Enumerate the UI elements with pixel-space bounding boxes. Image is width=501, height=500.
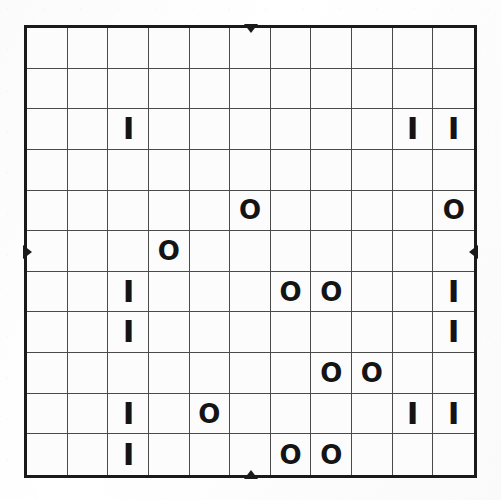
grid-cell[interactable] xyxy=(352,312,393,353)
grid-cell[interactable] xyxy=(433,231,474,272)
grid-cell[interactable]: O xyxy=(433,191,474,232)
grid-cell[interactable] xyxy=(149,109,190,150)
grid-cell[interactable]: I xyxy=(433,109,474,150)
grid-cell[interactable]: I xyxy=(108,109,149,150)
grid-cell[interactable] xyxy=(393,28,434,69)
grid-cell[interactable]: I xyxy=(433,312,474,353)
grid-cell[interactable] xyxy=(230,150,271,191)
grid-cell[interactable] xyxy=(68,312,109,353)
grid-cell[interactable] xyxy=(230,434,271,475)
grid-cell[interactable] xyxy=(27,272,68,313)
grid-cell[interactable] xyxy=(311,28,352,69)
grid-cell[interactable] xyxy=(311,69,352,110)
grid-cell[interactable] xyxy=(149,272,190,313)
grid-cell[interactable]: I xyxy=(433,394,474,435)
grid-cell[interactable]: I xyxy=(108,394,149,435)
grid-cell[interactable] xyxy=(68,272,109,313)
grid-cell[interactable] xyxy=(190,312,231,353)
grid-cell[interactable] xyxy=(108,150,149,191)
grid-cell[interactable] xyxy=(68,231,109,272)
grid-cell[interactable] xyxy=(68,353,109,394)
grid-cell[interactable] xyxy=(108,69,149,110)
grid-cell[interactable] xyxy=(27,231,68,272)
grid-cell[interactable]: O xyxy=(271,434,312,475)
grid-cell[interactable] xyxy=(190,272,231,313)
grid-cell[interactable] xyxy=(27,434,68,475)
grid-cell[interactable] xyxy=(68,191,109,232)
grid-cell[interactable] xyxy=(27,150,68,191)
grid-cell[interactable] xyxy=(149,394,190,435)
grid-cell[interactable] xyxy=(190,109,231,150)
grid-cell[interactable] xyxy=(433,434,474,475)
grid-cell[interactable]: I xyxy=(108,272,149,313)
grid-cell[interactable] xyxy=(190,150,231,191)
grid-cell[interactable] xyxy=(27,191,68,232)
grid-cell[interactable] xyxy=(190,231,231,272)
grid-cell[interactable] xyxy=(190,353,231,394)
grid-cell[interactable]: I xyxy=(393,109,434,150)
grid-cell[interactable]: I xyxy=(108,312,149,353)
grid-cell[interactable] xyxy=(149,69,190,110)
grid-cell[interactable] xyxy=(311,150,352,191)
grid-cell[interactable] xyxy=(68,394,109,435)
grid-cell[interactable] xyxy=(311,231,352,272)
grid-cell[interactable] xyxy=(271,150,312,191)
grid-cell[interactable] xyxy=(393,272,434,313)
grid-cell[interactable] xyxy=(190,191,231,232)
grid-cell[interactable] xyxy=(68,69,109,110)
grid-cell[interactable] xyxy=(352,191,393,232)
grid-cell[interactable] xyxy=(230,353,271,394)
grid-cell[interactable] xyxy=(271,353,312,394)
grid-cell[interactable] xyxy=(149,150,190,191)
grid-cell[interactable] xyxy=(230,394,271,435)
grid-cell[interactable] xyxy=(68,109,109,150)
grid-cell[interactable] xyxy=(271,312,312,353)
grid-cell[interactable] xyxy=(68,28,109,69)
grid-cell[interactable] xyxy=(27,28,68,69)
grid-cell[interactable]: O xyxy=(271,272,312,313)
grid-cell[interactable] xyxy=(108,191,149,232)
puzzle-grid[interactable]: IIIOOOIOOIIIOOIOIIIOO xyxy=(24,25,477,478)
grid-cell[interactable] xyxy=(27,353,68,394)
grid-cell[interactable] xyxy=(393,434,434,475)
grid-cell[interactable] xyxy=(271,109,312,150)
grid-cell[interactable] xyxy=(27,394,68,435)
grid-cell[interactable] xyxy=(311,312,352,353)
grid-cell[interactable] xyxy=(149,28,190,69)
grid-cell[interactable] xyxy=(149,353,190,394)
grid-cell[interactable] xyxy=(230,109,271,150)
grid-cell[interactable] xyxy=(393,150,434,191)
grid-cell[interactable] xyxy=(230,69,271,110)
grid-cell[interactable] xyxy=(352,109,393,150)
grid-cell[interactable] xyxy=(27,312,68,353)
grid-cell[interactable] xyxy=(230,272,271,313)
grid-cell[interactable]: O xyxy=(311,434,352,475)
grid-cell[interactable] xyxy=(190,28,231,69)
grid-cell[interactable]: O xyxy=(311,272,352,313)
grid-cell[interactable] xyxy=(433,28,474,69)
grid-cell[interactable] xyxy=(149,434,190,475)
grid-cell[interactable] xyxy=(393,353,434,394)
grid-cell[interactable] xyxy=(149,191,190,232)
grid-cell[interactable] xyxy=(149,312,190,353)
grid-cell[interactable] xyxy=(68,150,109,191)
grid-cell[interactable] xyxy=(230,312,271,353)
grid-cell[interactable] xyxy=(27,69,68,110)
grid-cell[interactable] xyxy=(230,28,271,69)
grid-cell[interactable] xyxy=(393,69,434,110)
grid-cell[interactable]: I xyxy=(433,272,474,313)
grid-cell[interactable]: I xyxy=(393,394,434,435)
grid-cell[interactable] xyxy=(190,434,231,475)
grid-cell[interactable] xyxy=(271,394,312,435)
grid-cell[interactable] xyxy=(311,394,352,435)
grid-cell[interactable] xyxy=(108,353,149,394)
grid-cell[interactable]: O xyxy=(190,394,231,435)
grid-cell[interactable] xyxy=(352,231,393,272)
grid-cell[interactable] xyxy=(271,191,312,232)
grid-cell[interactable]: O xyxy=(230,191,271,232)
grid-cell[interactable]: O xyxy=(352,353,393,394)
grid-cell[interactable] xyxy=(271,231,312,272)
grid-cell[interactable] xyxy=(352,150,393,191)
grid-cell[interactable] xyxy=(311,191,352,232)
grid-cell[interactable]: O xyxy=(149,231,190,272)
